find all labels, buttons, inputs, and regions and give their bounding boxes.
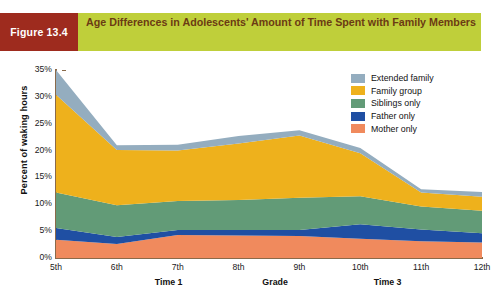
legend-color-swatch	[351, 124, 365, 133]
y-axis-tick-label: 5%	[18, 225, 52, 235]
x-axis-tick-label: 12th	[459, 262, 495, 272]
legend-color-swatch	[351, 74, 365, 83]
legend-item: Mother only	[351, 122, 434, 135]
x-axis-group-label: Time 1	[129, 277, 209, 287]
x-axis-tick-label: 9th	[276, 262, 322, 272]
x-axis-group-label: Time 3	[348, 277, 428, 287]
legend-color-swatch	[351, 86, 365, 95]
legend-item-label: Family group	[371, 86, 422, 96]
legend-color-swatch	[351, 112, 365, 121]
legend-item: Siblings only	[351, 97, 434, 110]
x-axis-tick-label: 10th	[337, 262, 383, 272]
y-axis-tick-label: 0%	[18, 252, 52, 262]
x-axis-tick-label: 5th	[33, 262, 79, 272]
legend-item: Father only	[351, 110, 434, 123]
x-axis-tick-label: 7th	[155, 262, 201, 272]
legend-item-label: Extended family	[371, 73, 434, 83]
x-axis-tick-label: 6th	[94, 262, 140, 272]
y-axis-title: Percent of waking hours	[19, 65, 29, 215]
y-axis-tick-group: 0%5%10%15%20%25%30%35%	[10, 0, 52, 303]
chart-legend: Extended familyFamily groupSiblings only…	[351, 72, 434, 135]
x-axis-tick-label: 11th	[398, 262, 444, 272]
legend-item-label: Father only	[371, 111, 415, 121]
legend-item: Family group	[351, 85, 434, 98]
legend-item-label: Siblings only	[371, 98, 420, 108]
x-axis-tick-label: 8th	[216, 262, 262, 272]
legend-item: Extended family	[351, 72, 434, 85]
legend-color-swatch	[351, 99, 365, 108]
legend-item-label: Mother only	[371, 124, 417, 134]
figure-title: Age Differences in Adolescents' Amount o…	[86, 16, 476, 30]
x-axis-group-label: Grade	[235, 277, 315, 287]
